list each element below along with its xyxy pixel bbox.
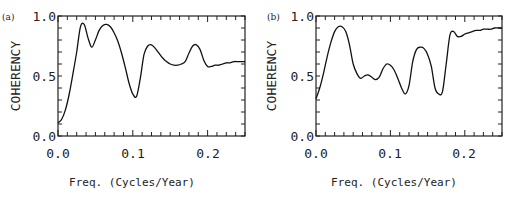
panel-b-ytick-05: 0.5	[291, 69, 314, 84]
coherency-line	[316, 26, 502, 99]
panel-a-ytick-0: 0.0	[33, 129, 56, 144]
panel-a-xtick-01: 0.1	[121, 146, 144, 161]
coherency-line	[58, 23, 245, 123]
panel-a-ylabel: COHERENCY	[8, 41, 23, 112]
panel-a-plot-area	[58, 16, 245, 136]
panel-b-xlabel: Freq. (Cycles/Year)	[331, 176, 457, 189]
panel-b-xtick-0: 0.0	[304, 146, 327, 161]
panel-b-label: (b)	[267, 12, 280, 22]
panel-b-ytick-1: 1.0	[291, 9, 314, 24]
panel-a: (a) 1.0 0.5 0.0 COHERENCY 0.0 0.1 0.2 Fr…	[2, 9, 245, 189]
panel-b-ytick-0: 0.0	[291, 129, 314, 144]
panel-b-xtick-01: 0.1	[378, 146, 401, 161]
panel-a-xtick-0: 0.0	[46, 146, 69, 161]
panel-b-plot-area	[316, 16, 502, 136]
panel-b-ylabel: COHERENCY	[264, 41, 279, 112]
plot-frame	[58, 16, 245, 136]
panel-a-ytick-05: 0.5	[33, 69, 56, 84]
figure: (a) 1.0 0.5 0.0 COHERENCY 0.0 0.1 0.2 Fr…	[0, 0, 512, 199]
panel-a-label: (a)	[2, 12, 14, 22]
panel-a-xlabel: Freq. (Cycles/Year)	[69, 176, 195, 189]
plot-frame	[316, 16, 502, 136]
panel-b: (b) 1.0 0.5 0.0 COHERENCY 0.0 0.1 0.2 Fr…	[264, 9, 502, 189]
panel-a-xtick-02: 0.2	[196, 146, 219, 161]
panel-b-xtick-02: 0.2	[452, 146, 475, 161]
panel-a-ytick-1: 1.0	[33, 9, 56, 24]
